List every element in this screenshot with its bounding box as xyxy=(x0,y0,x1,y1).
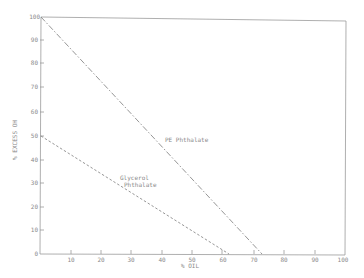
right-border xyxy=(345,21,346,255)
y-tick-0: 0 xyxy=(34,250,38,257)
x-tick-70: 70 xyxy=(250,256,258,263)
x-ticks xyxy=(71,250,315,254)
y-tick-100: 100 xyxy=(29,13,40,20)
y-tick-90: 90 xyxy=(31,36,39,43)
pe-phthalate-label: PE Phthalate xyxy=(165,136,209,143)
x-tick-labels: 10 20 30 40 50 60 70 80 90 100 xyxy=(67,256,348,263)
y-tick-30: 30 xyxy=(31,179,39,186)
x-tick-60: 60 xyxy=(219,256,227,263)
y-tick-50: 50 xyxy=(31,132,39,139)
glycerol-label-line2: Phthalate xyxy=(124,181,157,188)
x-tick-90: 90 xyxy=(311,256,319,263)
y-tick-10: 10 xyxy=(31,226,39,233)
y-tick-40: 40 xyxy=(31,156,39,163)
x-tick-100: 100 xyxy=(338,256,349,263)
y-tick-labels: 0 10 20 30 40 50 60 70 80 90 100 xyxy=(29,13,40,257)
x-tick-80: 80 xyxy=(280,256,288,263)
series-pe-phthalate xyxy=(41,17,262,254)
y-tick-60: 60 xyxy=(31,108,39,115)
y-tick-80: 80 xyxy=(31,59,39,66)
y-axis-label: % EXCESS OH xyxy=(11,120,18,160)
x-axis xyxy=(40,254,345,255)
y-axis xyxy=(40,17,41,254)
x-axis-label: % OIL xyxy=(181,262,199,269)
x-tick-30: 30 xyxy=(127,256,135,263)
chart: 0 10 20 30 40 50 60 70 80 90 100 10 20 3… xyxy=(0,0,364,278)
x-tick-40: 40 xyxy=(158,256,166,263)
x-tick-10: 10 xyxy=(67,256,75,263)
top-border xyxy=(41,17,346,21)
x-tick-20: 20 xyxy=(97,256,105,263)
y-tick-70: 70 xyxy=(31,83,39,90)
chart-svg: 0 10 20 30 40 50 60 70 80 90 100 10 20 3… xyxy=(0,0,364,278)
y-tick-20: 20 xyxy=(31,203,39,210)
series-glycerol-phthalate xyxy=(41,136,229,254)
